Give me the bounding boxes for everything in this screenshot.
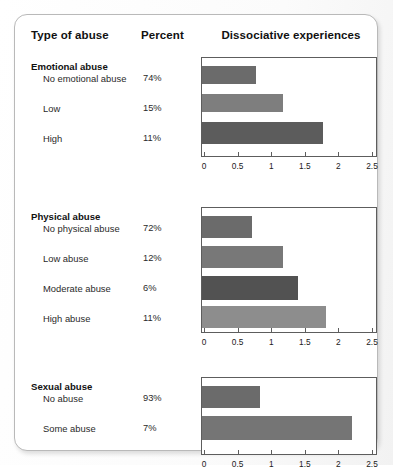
row-percent: 72%: [143, 223, 162, 233]
axis-tick-label: 1.5: [299, 337, 311, 347]
axis-tick-label: 0.5: [232, 459, 244, 469]
row-label: Low abuse: [43, 253, 88, 264]
row-label: No physical abuse: [43, 223, 120, 234]
row-label: Low: [43, 103, 60, 114]
axis-tick-label: 1: [269, 459, 274, 469]
column-header-chart: Dissociative experiences: [203, 29, 379, 41]
axis-tick: [372, 152, 373, 156]
axis-tick: [271, 450, 272, 454]
axis-tick: [271, 328, 272, 332]
bar: [202, 94, 283, 112]
axis-tick-label: 2.5: [366, 337, 378, 347]
axis-tick-label: 0: [202, 161, 207, 171]
axis-tick: [238, 328, 239, 332]
row-percent: 6%: [143, 283, 156, 293]
row-percent: 93%: [143, 393, 162, 403]
x-axis: 00.511.522.5: [201, 333, 377, 349]
axis-tick-label: 0.5: [232, 337, 244, 347]
row-label: High: [43, 133, 62, 144]
column-header-percent: Percent: [141, 29, 184, 41]
axis-tick-label: 1: [269, 337, 274, 347]
column-header-type: Type of abuse: [31, 29, 109, 41]
axis-tick-label: 2: [336, 161, 341, 171]
bar: [202, 246, 283, 268]
axis-tick: [338, 328, 339, 332]
axis-tick: [238, 152, 239, 156]
bar: [202, 416, 352, 440]
bar: [202, 216, 252, 238]
axis-tick: [372, 450, 373, 454]
group-title: Sexual abuse: [31, 381, 92, 392]
row-label: High abuse: [43, 313, 90, 324]
axis-tick-label: 1: [269, 161, 274, 171]
bar: [202, 122, 323, 144]
figure-inner: Type of abuse Percent Dissociative exper…: [15, 15, 377, 450]
row-label: No emotional abuse: [43, 73, 126, 84]
row-percent: 11%: [143, 313, 161, 323]
bar: [202, 386, 260, 408]
axis-tick: [372, 328, 373, 332]
row-percent: 11%: [143, 133, 161, 143]
group-title: Physical abuse: [31, 211, 100, 222]
group-title: Emotional abuse: [31, 61, 108, 72]
axis-tick: [204, 450, 205, 454]
axis-tick: [305, 450, 306, 454]
row-label: No abuse: [43, 393, 83, 404]
axis-tick: [338, 152, 339, 156]
bar: [202, 306, 326, 328]
axis-tick-label: 2: [336, 337, 341, 347]
axis-tick: [271, 152, 272, 156]
row-percent: 7%: [143, 423, 156, 433]
row-percent: 74%: [143, 73, 162, 83]
axis-tick-label: 2: [336, 459, 341, 469]
axis-tick: [305, 328, 306, 332]
row-percent: 12%: [143, 253, 162, 263]
plot-area: [201, 377, 377, 455]
x-axis: 00.511.522.5: [201, 455, 377, 471]
axis-tick-label: 2.5: [366, 161, 378, 171]
axis-tick-label: 0: [202, 337, 207, 347]
plot-area: [201, 207, 377, 333]
x-axis: 00.511.522.5: [201, 157, 377, 173]
axis-tick-label: 2.5: [366, 459, 378, 469]
axis-tick: [204, 152, 205, 156]
row-label: Some abuse: [43, 423, 96, 434]
axis-tick: [305, 152, 306, 156]
axis-tick: [204, 328, 205, 332]
axis-tick: [238, 450, 239, 454]
axis-tick: [338, 450, 339, 454]
plot-area: [201, 57, 377, 157]
row-label: Moderate abuse: [43, 283, 111, 294]
bar: [202, 276, 298, 300]
figure-card: Type of abuse Percent Dissociative exper…: [14, 14, 378, 451]
axis-tick-label: 1.5: [299, 459, 311, 469]
axis-tick-label: 0.5: [232, 161, 244, 171]
axis-tick-label: 0: [202, 459, 207, 469]
row-percent: 15%: [143, 103, 162, 113]
bar: [202, 66, 256, 84]
axis-tick-label: 1.5: [299, 161, 311, 171]
